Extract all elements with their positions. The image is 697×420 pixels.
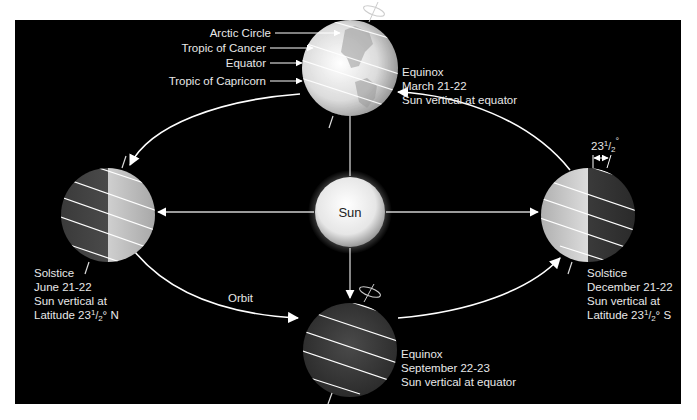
earth-september-equinox [300,284,400,404]
orbit-label: Orbit [228,292,254,304]
svg-text:Latitude 231/2° S: Latitude 231/2° S [587,308,671,323]
sun-label: Sun [338,205,361,220]
svg-text:Sun vertical at equator: Sun vertical at equator [401,376,516,388]
rotation-icon [362,2,385,22]
earth-december-solstice: 231/2° [540,136,640,274]
label-equator: Equator [226,57,266,69]
rotation-icon [358,284,381,302]
svg-text:Sun vertical at: Sun vertical at [587,295,661,307]
label-june-solstice: Solstice June 21-22 Sun vertical at Lati… [34,267,119,323]
svg-text:Solstice: Solstice [34,267,74,279]
svg-text:December 21-22: December 21-22 [587,281,673,293]
axis-south [329,116,333,128]
svg-text:Sun vertical at: Sun vertical at [34,295,108,307]
sun: Sun [308,170,392,254]
label-arctic-circle: Arctic Circle [210,27,271,39]
svg-text:June 21-22: June 21-22 [34,281,92,293]
svg-text:Equinox: Equinox [402,66,444,78]
label-tropic-of-cancer: Tropic of Cancer [181,42,266,54]
seasons-diagram: Sun Arctic Circle Tropic of Cancer Equat… [0,0,697,420]
label-tropic-of-capricorn: Tropic of Capricorn [169,75,266,87]
svg-text:Equinox: Equinox [401,348,443,360]
svg-text:March 21-22: March 21-22 [402,80,467,92]
label-december-solstice: Solstice December 21-22 Sun vertical at … [587,267,673,323]
svg-text:Solstice: Solstice [587,267,627,279]
tilt-label: 231/2° [591,136,619,154]
earth-june-solstice [55,156,160,274]
svg-text:September 22-23: September 22-23 [401,362,490,374]
label-march-equinox: Equinox March 21-22 Sun vertical at equa… [402,66,517,106]
label-september-equinox: Equinox September 22-23 Sun vertical at … [401,348,516,388]
svg-text:Sun vertical at equator: Sun vertical at equator [402,94,517,106]
svg-text:Latitude 231/2° N: Latitude 231/2° N [34,308,119,323]
earth-march-equinox [295,2,410,136]
tilt-indicator [593,155,611,168]
